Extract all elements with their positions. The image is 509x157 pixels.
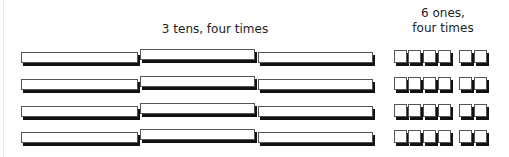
one-cube bbox=[459, 50, 472, 63]
ten-rod bbox=[258, 106, 373, 117]
one-cube bbox=[394, 50, 407, 63]
tens-label: 3 tens, four times bbox=[110, 22, 320, 37]
base-ten-row-1 bbox=[0, 49, 509, 69]
ones-label-line1: 6 ones, bbox=[388, 6, 498, 21]
one-cube bbox=[394, 77, 407, 90]
one-cube bbox=[408, 104, 421, 117]
one-cube bbox=[394, 104, 407, 117]
ten-rod bbox=[21, 132, 138, 143]
ten-rod bbox=[258, 52, 373, 63]
one-cube bbox=[474, 50, 487, 63]
ones-label: 6 ones, four times bbox=[388, 6, 498, 36]
base-ten-row-2 bbox=[0, 76, 509, 96]
one-cube bbox=[459, 104, 472, 117]
one-cube bbox=[438, 77, 451, 90]
ten-rod bbox=[21, 106, 138, 117]
one-cube bbox=[474, 130, 487, 143]
one-cube bbox=[438, 130, 451, 143]
one-cube bbox=[423, 104, 436, 117]
ten-rod bbox=[21, 79, 138, 90]
ten-rod bbox=[140, 129, 255, 140]
ten-rod bbox=[21, 52, 138, 63]
base-ten-row-3 bbox=[0, 103, 509, 123]
one-cube bbox=[423, 130, 436, 143]
ones-label-line2: four times bbox=[388, 21, 498, 36]
one-cube bbox=[408, 77, 421, 90]
one-cube bbox=[459, 130, 472, 143]
ten-rod bbox=[140, 49, 255, 60]
ten-rod bbox=[140, 76, 255, 87]
one-cube bbox=[438, 104, 451, 117]
ten-rod bbox=[258, 79, 373, 90]
base-ten-row-4 bbox=[0, 129, 509, 149]
one-cube bbox=[474, 104, 487, 117]
ten-rod bbox=[258, 132, 373, 143]
one-cube bbox=[423, 50, 436, 63]
ten-rod bbox=[140, 103, 255, 114]
one-cube bbox=[408, 130, 421, 143]
one-cube bbox=[408, 50, 421, 63]
one-cube bbox=[474, 77, 487, 90]
one-cube bbox=[423, 77, 436, 90]
one-cube bbox=[459, 77, 472, 90]
one-cube bbox=[394, 130, 407, 143]
one-cube bbox=[438, 50, 451, 63]
